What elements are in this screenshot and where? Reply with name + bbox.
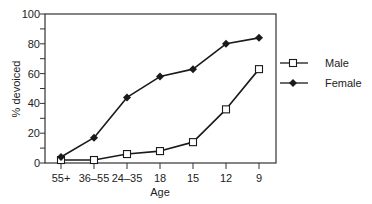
legend-item-female: Female	[280, 77, 362, 89]
y-tick-label: 0	[34, 157, 40, 169]
legend-label-female: Female	[325, 77, 362, 89]
legend-item-male: Male	[280, 57, 349, 69]
data-point	[223, 106, 230, 113]
x-tick-label: 9	[256, 172, 262, 184]
y-tick-label: 20	[28, 127, 40, 139]
x-axis-label: Age	[150, 186, 170, 198]
data-point	[91, 157, 98, 164]
plot-frame	[45, 14, 276, 163]
filled-diamond-icon	[289, 79, 297, 87]
x-tick-label: 36–55	[79, 172, 110, 184]
x-tick-label: 55+	[52, 172, 71, 184]
data-point	[156, 73, 164, 81]
data-point	[255, 34, 263, 42]
y-tick-label: 40	[28, 97, 40, 109]
x-tick-label: 12	[220, 172, 232, 184]
x-axis: 55+36–5524–351815129	[52, 163, 262, 184]
x-tick-label: 18	[154, 172, 166, 184]
line-chart: 020406080100 55+36–5524–351815129 % devo…	[0, 0, 372, 204]
series-layer	[57, 34, 263, 164]
data-point	[157, 148, 164, 155]
y-axis-label: % devoiced	[10, 61, 22, 118]
y-tick-label: 80	[28, 38, 40, 50]
plot-border	[45, 14, 276, 163]
y-axis: 020406080100	[22, 8, 45, 169]
data-point	[256, 66, 263, 73]
y-tick-label: 60	[28, 68, 40, 80]
x-tick-label: 15	[187, 172, 199, 184]
legend: Male Female	[280, 57, 362, 89]
data-point	[124, 151, 131, 158]
data-point	[190, 139, 197, 146]
open-square-icon	[290, 60, 297, 67]
series-female	[57, 34, 263, 161]
y-tick-label: 100	[22, 8, 40, 20]
x-tick-label: 24–35	[112, 172, 143, 184]
legend-label-male: Male	[325, 57, 349, 69]
